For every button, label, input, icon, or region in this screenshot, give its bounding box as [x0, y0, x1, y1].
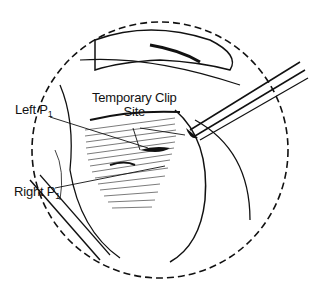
label-right-p1: Right P1 — [14, 185, 60, 203]
leader-line-left-p1 — [50, 117, 148, 148]
label-temporary-clip-site: Temporary Clip Site — [92, 91, 177, 119]
label-left-p1-subscript: 1 — [48, 109, 53, 119]
label-left-p1: Left P1 — [15, 103, 53, 121]
label-right-p1-subscript: 1 — [55, 191, 60, 201]
figure: Temporary Clip Site Left P1 Right P1 — [0, 0, 312, 285]
label-temporary-clip-line1: Temporary Clip — [92, 91, 177, 105]
label-right-p1-text: Right P — [14, 184, 55, 199]
label-temporary-clip-line2: Site — [92, 105, 177, 119]
label-left-p1-text: Left P — [15, 102, 48, 117]
leader-line-clip-site-1 — [133, 128, 140, 150]
illustration-drawing — [0, 0, 312, 285]
